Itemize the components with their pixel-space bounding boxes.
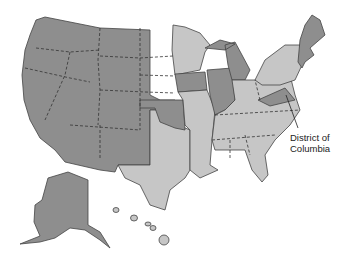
state-alaska — [20, 172, 110, 248]
state-iowa — [175, 72, 207, 92]
state-new-england — [298, 15, 325, 68]
state-minnesota-wisconsin — [172, 25, 210, 75]
dc-label-line2: Columbia — [290, 143, 330, 154]
state-new-york-pennsylvania — [255, 45, 302, 85]
state-hawaii — [113, 208, 169, 246]
dc-label-line1: District of — [290, 132, 330, 143]
dc-label: District of Columbia — [290, 132, 330, 154]
